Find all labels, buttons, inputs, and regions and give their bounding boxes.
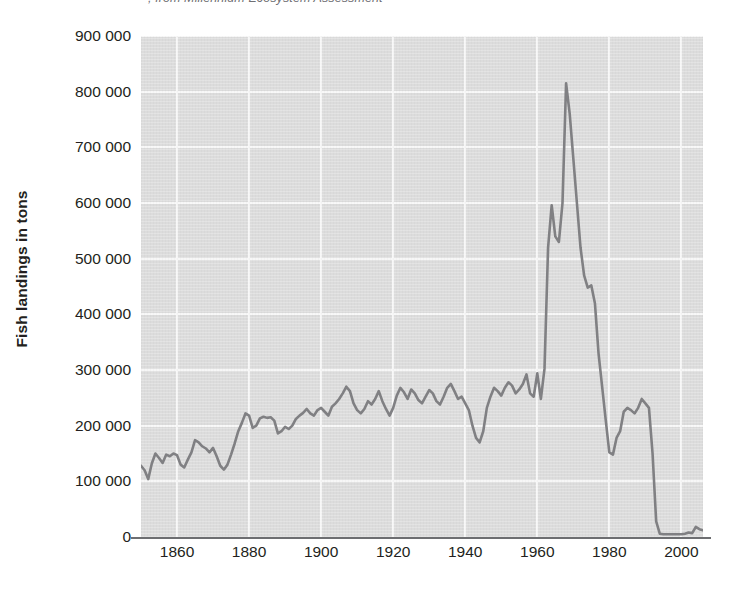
x-axis-tick-label: 1860 [160,543,194,561]
y-axis-title-text: Fish landings in tons [13,190,31,347]
y-axis-tick-label: 400 000 [39,307,131,323]
fish-landings-chart-figure: ; from Millennium Ecosystem Assessment F… [0,0,729,591]
y-axis-tick-label: 700 000 [39,140,131,156]
y-axis-tick-label: 300 000 [39,362,131,378]
x-axis-tick-label: 2000 [664,543,698,561]
y-axis-tick-label: 800 000 [39,84,131,100]
x-axis-tick-label: 1920 [376,543,410,561]
y-axis-tick-label: 100 000 [39,474,131,490]
fish-landings-line [141,83,703,534]
data-series-layer [141,36,703,537]
x-axis-tick-label: 1980 [592,543,626,561]
x-axis-line [131,537,711,539]
figure-caption-text: ; from Millennium Ecosystem Assessment [148,0,383,5]
y-axis-tick-label: 600 000 [39,195,131,211]
y-axis-tick-label: 200 000 [39,418,131,434]
y-axis-tick-label: 500 000 [39,251,131,267]
x-axis-tick-labels: 18601880190019201940196019802000 [0,543,729,573]
x-axis-tick-label: 1960 [520,543,554,561]
x-axis-tick-label: 1880 [232,543,266,561]
y-axis-tick-label: 900 000 [39,28,131,44]
y-axis-title: Fish landings in tons [0,0,44,537]
y-axis-tick-labels: 900 000800 000700 000600 000500 000400 0… [44,0,137,591]
plot-area [141,36,703,537]
x-axis-tick-label: 1940 [448,543,482,561]
x-axis-tick-label: 1900 [304,543,338,561]
